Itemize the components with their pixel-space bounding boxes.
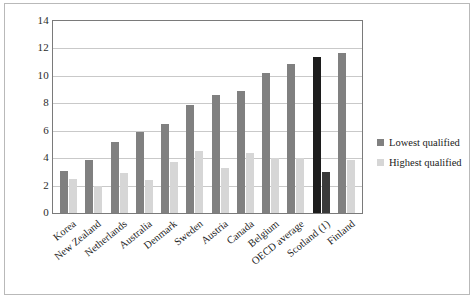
legend-item-highest-qualified: Highest qualified <box>377 157 473 168</box>
bar-lowest-qualified <box>60 171 68 214</box>
bar-group <box>107 21 132 213</box>
bar-group <box>157 21 182 213</box>
bar-highest-qualified <box>69 179 77 213</box>
bar-group <box>56 21 81 213</box>
bar-lowest-qualified <box>237 91 245 213</box>
legend-label-highest: Highest qualified <box>389 157 462 168</box>
legend-item-lowest-qualified: Lowest qualified <box>377 137 473 148</box>
y-axis-tick-label: 0 <box>43 207 49 218</box>
y-axis-tick-label: 4 <box>43 152 49 163</box>
bar-group <box>283 21 308 213</box>
y-axis-tick-labels: 02468101214 <box>19 12 49 222</box>
x-axis-category-labels: KoreaNew ZealandNetherlandsAustraliaDenm… <box>52 216 363 276</box>
bar-group <box>81 21 106 213</box>
bar-group <box>258 21 283 213</box>
legend-swatch-icon-lowest <box>377 139 384 146</box>
bar-group <box>233 21 258 213</box>
bar-group <box>309 21 334 213</box>
y-axis-tick-label: 10 <box>38 70 49 81</box>
legend-label-lowest: Lowest qualified <box>389 137 460 148</box>
y-axis-tick-label: 12 <box>38 42 49 53</box>
y-axis-tick-label: 8 <box>43 97 49 108</box>
y-axis-tick-label: 6 <box>43 125 49 136</box>
bar-lowest-qualified <box>262 73 270 213</box>
y-axis-tick-label: 14 <box>38 15 49 26</box>
bar-group <box>182 21 207 213</box>
bar-lowest-qualified <box>212 95 220 213</box>
bar-group <box>208 21 233 213</box>
chart-legend: Lowest qualified Highest qualified <box>377 137 473 177</box>
bar-series-container <box>53 21 362 213</box>
bar-lowest-qualified <box>186 105 194 213</box>
plot-area <box>52 20 363 214</box>
y-axis-tick-label: 2 <box>43 180 49 191</box>
chart-frame: 02468101214 KoreaNew ZealandNetherlandsA… <box>4 3 470 295</box>
legend-swatch-icon-highest <box>377 159 384 166</box>
bar-lowest-qualified <box>313 57 321 213</box>
bar-lowest-qualified <box>287 64 295 213</box>
